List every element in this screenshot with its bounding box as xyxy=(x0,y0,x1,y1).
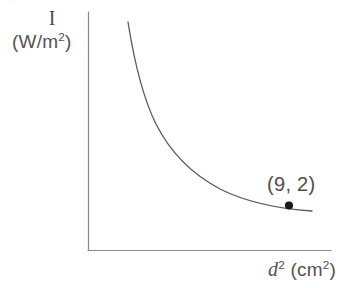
figure-root: . I (W/m2) d2 (cm2) (9, 2) xyxy=(0,0,358,288)
y-axis-units-label: (W/m2) xyxy=(12,32,71,51)
x-axis-variable-exponent: 2 xyxy=(278,258,285,271)
y-axis-units-exponent: 2 xyxy=(58,30,65,43)
x-axis-units-open: (cm xyxy=(285,259,323,280)
x-axis-units-close: ) xyxy=(329,259,336,280)
y-axis-units-close: ) xyxy=(65,31,72,52)
y-axis-units-open: (W/m xyxy=(12,31,58,52)
data-point-marker xyxy=(285,201,293,209)
x-axis-label: d2 (cm2) xyxy=(268,259,336,279)
data-point-label: (9, 2) xyxy=(267,174,315,194)
y-axis-symbol-label: I xyxy=(38,8,66,28)
x-axis-variable: d xyxy=(268,258,278,280)
